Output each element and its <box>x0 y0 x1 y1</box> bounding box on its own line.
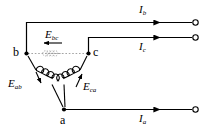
source-label-eab: Eab <box>8 78 22 89</box>
node-label-a: a <box>60 114 65 126</box>
winding-bc <box>28 51 88 56</box>
node-label-b: b <box>13 46 19 58</box>
winding-ab <box>28 56 63 107</box>
source-label-eca-subscript: ca <box>90 86 97 94</box>
circuit-schematic-svg <box>0 0 208 133</box>
current-label-ia: Ia <box>139 113 146 124</box>
current-label-ib-subscript: b <box>143 9 147 17</box>
terminal-c <box>193 35 198 40</box>
source-label-ebc: Ebc <box>45 29 58 40</box>
source-label-eab-subscript: ab <box>15 83 22 91</box>
current-label-ia-subscript: a <box>143 118 147 126</box>
line-conductor-a <box>64 107 198 112</box>
source-label-eab-symbol: E <box>8 77 15 89</box>
current-label-ic: Ic <box>139 41 146 52</box>
source-label-ebc-symbol: E <box>45 28 52 40</box>
e-ab-reference-arrow <box>36 72 41 83</box>
terminal-a <box>193 107 198 112</box>
e-ca-reference-arrow <box>76 74 82 87</box>
current-label-ib: Ib <box>139 4 146 15</box>
current-label-ic-subscript: c <box>143 46 146 54</box>
source-label-eca: Eca <box>83 81 96 92</box>
delta-source-diagram: b c a Ebc Eab Eca Ib Ic Ia <box>0 0 208 133</box>
terminal-b <box>193 20 198 25</box>
node-label-c: c <box>93 46 98 58</box>
source-label-eca-symbol: E <box>83 80 90 92</box>
source-label-ebc-subscript: bc <box>52 34 59 42</box>
